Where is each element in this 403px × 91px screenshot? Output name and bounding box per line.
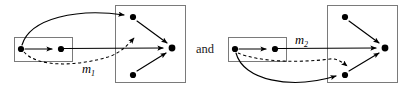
right-target-node-bottom [342, 72, 348, 78]
left-source-node-1 [18, 46, 24, 52]
left-target-node-bottom [130, 72, 136, 78]
right-target-node-right [382, 45, 389, 52]
morphism-diagram-figure: m 1 and m [0, 0, 403, 91]
left-target-node-right [169, 45, 176, 52]
right-diagram-target-box [328, 6, 398, 83]
left-source-node-2 [58, 46, 64, 52]
left-dashed-map-edge [24, 38, 134, 64]
right-source-node-2 [272, 46, 278, 52]
right-target-edge-top-to-right [349, 21, 379, 43]
left-target-node-top [130, 14, 136, 20]
left-cross-edge-straight-to-right-node [64, 48, 163, 49]
left-target-edge-top-to-right [137, 21, 167, 43]
right-source-node-1 [232, 46, 238, 52]
figure-container: m 1 and m [0, 0, 403, 91]
left-map-label: m [82, 62, 91, 76]
left-target-edge-bottom-to-right [137, 53, 166, 71]
right-dashed-map-edge [238, 53, 347, 66]
left-diagram: m 1 [15, 6, 186, 83]
conjunction-label: and [196, 42, 215, 56]
left-map-label-subscript: 1 [91, 69, 95, 78]
left-diagram-target-box [116, 6, 186, 83]
right-map-label-subscript: 2 [304, 40, 308, 49]
right-diagram: m 2 [229, 6, 398, 83]
right-target-node-top [342, 14, 348, 20]
right-target-edge-bottom-to-right [349, 53, 379, 71]
right-cross-edge-straight-to-right-node [278, 48, 376, 49]
right-map-label: m [295, 33, 304, 47]
